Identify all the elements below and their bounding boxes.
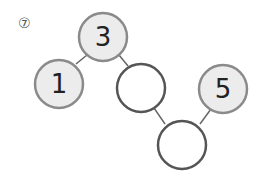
svg-text:5: 5 bbox=[215, 74, 232, 104]
number-tree-diagram: 3 1 5 bbox=[0, 0, 256, 175]
svg-text:1: 1 bbox=[51, 69, 68, 99]
node-right: 5 bbox=[199, 65, 247, 113]
node-bottom-empty[interactable] bbox=[158, 121, 206, 169]
node-top: 3 bbox=[79, 13, 127, 61]
node-middle-empty[interactable] bbox=[117, 64, 165, 112]
node-left: 1 bbox=[35, 60, 83, 108]
svg-text:3: 3 bbox=[95, 22, 112, 52]
